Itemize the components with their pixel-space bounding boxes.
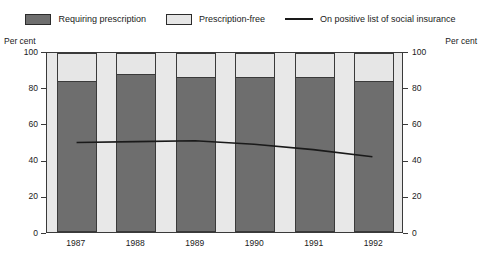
y-tick-mark-left bbox=[41, 197, 46, 198]
x-axis-label: 1989 bbox=[165, 238, 225, 248]
x-axis-label: 1987 bbox=[46, 238, 106, 248]
legend-item-label: On positive list of social insurance bbox=[320, 14, 456, 25]
legend-positive-list: On positive list of social insurance bbox=[285, 14, 456, 25]
x-axis-label: 1991 bbox=[284, 238, 344, 248]
y-tick-label-left: 20 bbox=[14, 192, 38, 201]
y-tick-label-left: 100 bbox=[14, 48, 38, 57]
y-tick-mark-left bbox=[41, 124, 46, 125]
y-tick-mark-right bbox=[403, 124, 408, 125]
y-tick-label-right: 100 bbox=[412, 48, 436, 57]
y-tick-label-right: 60 bbox=[412, 120, 436, 129]
x-axis-label: 1990 bbox=[225, 238, 285, 248]
plot-area bbox=[46, 52, 403, 233]
chart-container: Requiring prescriptionPrescription-freeO… bbox=[0, 0, 481, 272]
legend-item-label: Prescription-free bbox=[199, 14, 265, 25]
legend-prescription-free: Prescription-free bbox=[166, 14, 265, 25]
y-tick-mark-right bbox=[403, 52, 408, 53]
legend-color-swatch bbox=[25, 14, 51, 25]
y-tick-mark-right bbox=[403, 161, 408, 162]
y-tick-label-right: 0 bbox=[412, 229, 436, 238]
y-tick-label-left: 0 bbox=[14, 229, 38, 238]
y-tick-mark-right bbox=[403, 233, 408, 234]
y-axis-caption-left: Per cent bbox=[4, 36, 36, 46]
y-tick-label-left: 80 bbox=[14, 84, 38, 93]
y-tick-mark-right bbox=[403, 197, 408, 198]
legend-color-swatch bbox=[166, 14, 192, 25]
y-tick-label-left: 40 bbox=[14, 156, 38, 165]
chart-legend: Requiring prescriptionPrescription-freeO… bbox=[0, 8, 481, 30]
y-tick-mark-left bbox=[41, 52, 46, 53]
legend-line-marker bbox=[285, 18, 313, 20]
y-tick-label-right: 40 bbox=[412, 156, 436, 165]
y-tick-label-right: 20 bbox=[412, 192, 436, 201]
y-tick-mark-left bbox=[41, 161, 46, 162]
y-tick-label-left: 60 bbox=[14, 120, 38, 129]
y-tick-label-right: 80 bbox=[412, 84, 436, 93]
positive-list-line bbox=[77, 141, 373, 157]
y-tick-mark-right bbox=[403, 88, 408, 89]
legend-item-label: Requiring prescription bbox=[58, 14, 146, 25]
x-axis-label: 1992 bbox=[344, 238, 404, 248]
legend-requiring-prescription: Requiring prescription bbox=[25, 14, 146, 25]
y-axis-caption-right: Per cent bbox=[445, 36, 477, 46]
y-tick-mark-left bbox=[41, 233, 46, 234]
y-tick-mark-left bbox=[41, 88, 46, 89]
line-series-layer bbox=[47, 53, 402, 232]
x-axis-label: 1988 bbox=[106, 238, 166, 248]
